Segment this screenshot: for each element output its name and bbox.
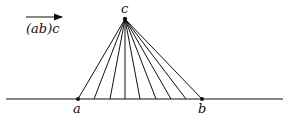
- point-label-a: a: [73, 101, 81, 116]
- ray: [94, 19, 125, 99]
- ray-fan: [78, 19, 202, 99]
- apex-point-c: [123, 17, 127, 21]
- ray: [125, 19, 140, 99]
- ray: [125, 19, 186, 99]
- ray-b: [125, 19, 202, 99]
- arrow-label: (ab)c: [26, 21, 60, 36]
- apex-label-c: c: [121, 1, 129, 16]
- diagram-canvas: (ab)c c a b: [0, 0, 299, 129]
- point-label-b: b: [198, 101, 206, 116]
- ray: [125, 19, 156, 99]
